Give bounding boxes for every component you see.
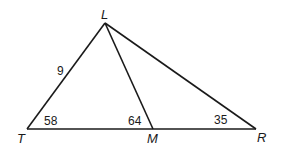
angle-label-T: 58 xyxy=(44,114,58,128)
angle-label-LMT: 64 xyxy=(128,114,142,128)
vertex-label-R: R xyxy=(257,130,266,145)
vertex-label-L: L xyxy=(101,7,108,22)
side-length-LT: 9 xyxy=(57,64,64,78)
vertex-label-M: M xyxy=(147,131,158,146)
angle-label-R: 35 xyxy=(214,113,228,127)
segment-LT xyxy=(27,23,105,129)
triangle-diagram: L T M R 9 58 64 35 xyxy=(0,0,281,150)
vertex-label-T: T xyxy=(17,131,26,146)
